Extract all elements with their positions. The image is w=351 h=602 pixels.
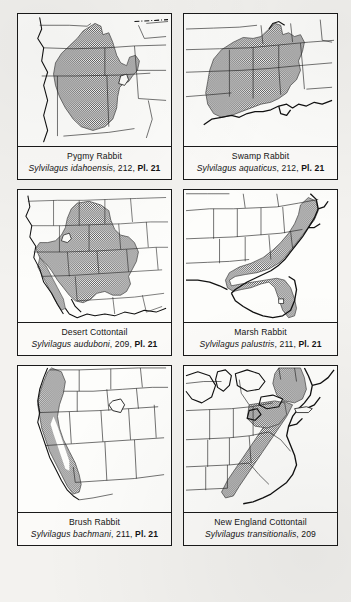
plate-ref: Pl. 21 bbox=[301, 163, 324, 173]
range-map-new-england-cottontail bbox=[184, 366, 337, 512]
page-ref: 212 bbox=[282, 163, 297, 173]
scientific-name: Sylvilagus idahoensis bbox=[29, 163, 113, 173]
caption-brush-rabbit: Brush Rabbit Sylvilagus bachmani, 211, P… bbox=[18, 512, 171, 546]
common-name: Desert Cottontail bbox=[20, 327, 169, 338]
caption-desert-cottontail: Desert Cottontail Sylvilagus auduboni, 2… bbox=[18, 322, 171, 356]
common-name: Brush Rabbit bbox=[20, 517, 169, 528]
range-map-pygmy-rabbit bbox=[18, 14, 171, 146]
plate-ref: Pl. 21 bbox=[137, 163, 160, 173]
panel-grid: Pygmy Rabbit Sylvilagus idahoensis, 212,… bbox=[17, 13, 338, 586]
scientific-name: Sylvilagus auduboni bbox=[31, 339, 109, 349]
caption-swamp-rabbit: Swamp Rabbit Sylvilagus aquaticus, 212, … bbox=[184, 146, 337, 180]
range-map-brush-rabbit bbox=[18, 366, 171, 512]
plate-ref: Pl. 21 bbox=[135, 529, 158, 539]
page-ref: 212 bbox=[118, 163, 133, 173]
scientific-name: Sylvilagus palustris bbox=[199, 339, 274, 349]
map-panel-pygmy-rabbit[interactable]: Pygmy Rabbit Sylvilagus idahoensis, 212,… bbox=[17, 13, 172, 180]
map-panel-swamp-rabbit[interactable]: Swamp Rabbit Sylvilagus aquaticus, 212, … bbox=[183, 13, 338, 180]
lake-feature bbox=[279, 299, 284, 304]
scientific-line: Sylvilagus bachmani, 211, Pl. 21 bbox=[20, 529, 169, 540]
map-panel-new-england-cottontail[interactable]: New England Cottontail Sylvilagus transi… bbox=[183, 365, 338, 546]
plate-page: Pygmy Rabbit Sylvilagus idahoensis, 212,… bbox=[0, 0, 351, 602]
caption-new-england-cottontail: New England Cottontail Sylvilagus transi… bbox=[184, 512, 337, 546]
common-name: Pygmy Rabbit bbox=[20, 151, 169, 162]
scientific-name: Sylvilagus transitionalis bbox=[205, 529, 296, 539]
scientific-line: Sylvilagus palustris, 211, Pl. 21 bbox=[186, 339, 335, 350]
scientific-line: Sylvilagus auduboni, 209, Pl. 21 bbox=[20, 339, 169, 350]
map-panel-marsh-rabbit[interactable]: Marsh Rabbit Sylvilagus palustris, 211, … bbox=[183, 189, 338, 356]
scientific-line: Sylvilagus transitionalis, 209 bbox=[186, 529, 335, 540]
plate-ref: Pl. 21 bbox=[134, 339, 157, 349]
page-ref: 211 bbox=[280, 339, 294, 349]
map-panel-desert-cottontail[interactable]: Desert Cottontail Sylvilagus auduboni, 2… bbox=[17, 189, 172, 356]
range-map-desert-cottontail bbox=[18, 190, 171, 322]
common-name: New England Cottontail bbox=[186, 517, 335, 528]
range-map-swamp-rabbit bbox=[184, 14, 337, 146]
map-panel-brush-rabbit[interactable]: Brush Rabbit Sylvilagus bachmani, 211, P… bbox=[17, 365, 172, 546]
common-name: Marsh Rabbit bbox=[186, 327, 335, 338]
page-ref: 209 bbox=[115, 339, 130, 349]
scientific-line: Sylvilagus idahoensis, 212, Pl. 21 bbox=[20, 163, 169, 174]
range-map-marsh-rabbit bbox=[184, 190, 337, 322]
caption-marsh-rabbit: Marsh Rabbit Sylvilagus palustris, 211, … bbox=[184, 322, 337, 356]
scientific-line: Sylvilagus aquaticus, 212, Pl. 21 bbox=[186, 163, 335, 174]
scientific-name: Sylvilagus bachmani bbox=[31, 529, 111, 539]
page-ref: 211 bbox=[116, 529, 130, 539]
caption-pygmy-rabbit: Pygmy Rabbit Sylvilagus idahoensis, 212,… bbox=[18, 146, 171, 180]
common-name: Swamp Rabbit bbox=[186, 151, 335, 162]
scientific-name: Sylvilagus aquaticus bbox=[197, 163, 277, 173]
plate-ref: Pl. 21 bbox=[298, 339, 321, 349]
page-ref: 209 bbox=[301, 529, 316, 539]
